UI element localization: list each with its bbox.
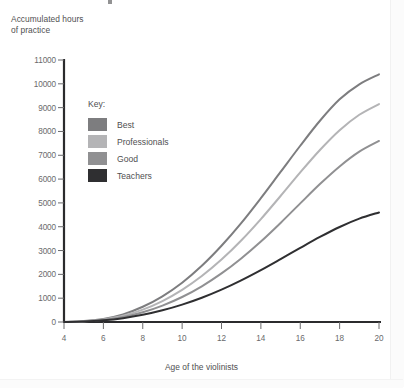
y-tick-label: 11000 bbox=[12, 56, 56, 65]
y-tick-label: 7000 bbox=[12, 151, 56, 160]
legend-swatch-icon bbox=[88, 118, 107, 131]
legend-item-label: Professionals bbox=[117, 137, 169, 147]
legend-swatch-icon bbox=[88, 135, 107, 148]
legend-item-best: Best bbox=[88, 116, 169, 133]
y-tick-label: 6000 bbox=[12, 175, 56, 184]
x-axis-title: Age of the violinists bbox=[0, 362, 403, 372]
legend-item-label: Good bbox=[117, 154, 138, 164]
y-tick-label: 0 bbox=[12, 318, 56, 327]
x-tick-label: 16 bbox=[285, 334, 315, 343]
x-tick-label: 10 bbox=[167, 334, 197, 343]
series-line-teachers bbox=[64, 212, 379, 322]
y-tick-label: 8000 bbox=[12, 127, 56, 136]
chart-legend: Key: BestProfessionalsGoodTeachers bbox=[88, 99, 169, 184]
x-tick-label: 14 bbox=[246, 334, 276, 343]
legend-item-professionals: Professionals bbox=[88, 133, 169, 150]
y-tick-label: 4000 bbox=[12, 222, 56, 231]
x-tick-label: 20 bbox=[364, 334, 394, 343]
legend-swatch-icon bbox=[88, 152, 107, 165]
legend-item-good: Good bbox=[88, 150, 169, 167]
y-tick-label: 9000 bbox=[12, 103, 56, 112]
legend-title: Key: bbox=[88, 99, 169, 109]
legend-item-teachers: Teachers bbox=[88, 167, 169, 184]
x-tick-label: 12 bbox=[207, 334, 237, 343]
x-tick-label: 6 bbox=[88, 334, 118, 343]
legend-item-label: Best bbox=[117, 120, 134, 130]
y-tick-label: 5000 bbox=[12, 198, 56, 207]
x-tick-label: 4 bbox=[49, 334, 79, 343]
x-tick-label: 8 bbox=[128, 334, 158, 343]
y-tick-label: 3000 bbox=[12, 246, 56, 255]
legend-swatch-icon bbox=[88, 169, 107, 182]
y-tick-label: 10000 bbox=[12, 79, 56, 88]
y-tick-label: 1000 bbox=[12, 294, 56, 303]
legend-item-label: Teachers bbox=[117, 171, 152, 181]
y-tick-label: 2000 bbox=[12, 270, 56, 279]
x-tick-label: 18 bbox=[325, 334, 355, 343]
